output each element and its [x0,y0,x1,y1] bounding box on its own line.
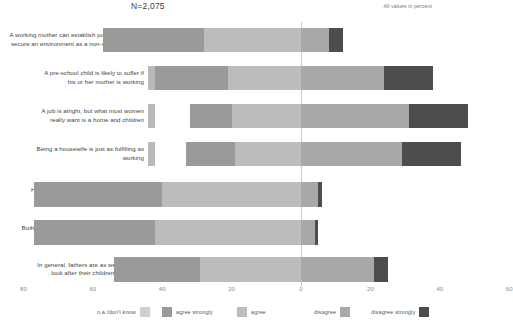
x-axis-tick: 60 [506,286,513,292]
sample-size-label: N=2,075 [131,1,165,11]
bar-segment-disagree[interactable] [301,182,318,207]
legend-swatch [237,307,247,317]
bar-segment-agree[interactable] [235,142,301,166]
legend-swatch [140,307,150,317]
legend-item[interactable]: disagree strongly [371,306,429,318]
bar-segment-agree-strongly[interactable] [103,28,204,52]
legend-label: disagree [314,309,336,315]
bar-segment-disagree[interactable] [301,220,315,245]
chart-row: A working mother can establish just as w… [0,28,435,52]
chart-row: Having a job is the best way for a woman… [0,182,435,207]
bar-segment-disagree-strongly[interactable] [374,257,388,282]
x-axis-tick: 40 [159,286,166,292]
bar-segment-agree-strongly[interactable] [155,66,228,90]
legend-label: disagree strongly [371,309,415,315]
x-axis-tick: 80 [20,286,27,292]
x-axis-tick: 40 [436,286,443,292]
bar-segment-disagree-strongly[interactable] [315,220,318,245]
chart-row: In general, fathers are as well suited t… [0,257,435,282]
bar-segment-disagree[interactable] [301,28,329,52]
chart-row: Both the husband and wife should contrib… [0,220,435,245]
legend-swatch [340,307,350,317]
stacked-bar[interactable] [186,142,460,166]
bar-segment-disagree[interactable] [301,257,374,282]
bar-segment-agree-strongly[interactable] [34,220,155,245]
bar-segment-disagree-strongly[interactable] [409,104,468,128]
bar-segment-agree[interactable] [232,104,301,128]
x-axis: 806040200204060 [0,286,435,298]
x-axis-tick: 20 [228,286,235,292]
stacked-bar[interactable] [114,257,388,282]
legend-item[interactable]: disagree [314,306,350,318]
row-label: A pre-school child is likely to suffer i… [0,69,144,86]
row-label: A job is alright, but what most womenrea… [0,107,144,124]
plot-area: A working mother can establish just as w… [0,22,435,284]
stacked-bar[interactable] [103,28,342,52]
bar-segment-disagree-strongly[interactable] [384,66,433,90]
chart-legend: n.a./don't knowagree stronglyagreedisagr… [0,306,435,320]
bar-segment-agree[interactable] [204,28,301,52]
row-label: Being a housewife is just as fulfilling … [0,145,144,162]
bar-segment-agree[interactable] [228,66,301,90]
bar-segment-agree[interactable] [162,182,301,207]
stacked-bar[interactable] [34,182,322,207]
bar-segment-disagree-strongly[interactable] [329,28,343,52]
legend-label: agree [251,309,266,315]
bar-segment-agree[interactable] [200,257,301,282]
bar-segment-agree-strongly[interactable] [34,182,162,207]
legend-item[interactable]: agree [237,306,266,318]
legend-label: n.a./don't know [97,309,136,315]
bar-segment-disagree[interactable] [301,104,409,128]
legend-item[interactable]: agree strongly [162,306,213,318]
bar-segment-disagree[interactable] [301,142,402,166]
chart-row: A job is alright, but what most womenrea… [0,104,435,128]
x-axis-tick: 20 [367,286,374,292]
row-marker-swatch [148,66,155,90]
legend-swatch [162,307,172,317]
x-axis-tick: 0 [299,286,302,292]
bar-segment-agree-strongly[interactable] [190,104,232,128]
stacked-bar[interactable] [155,66,433,90]
chart-row: A pre-school child is likely to suffer i… [0,66,435,90]
legend-swatch [419,307,429,317]
chart-row: Being a housewife is just as fulfilling … [0,142,435,166]
bar-segment-disagree-strongly[interactable] [402,142,461,166]
bar-segment-agree[interactable] [155,220,301,245]
stacked-bar[interactable] [190,104,468,128]
bar-segment-agree-strongly[interactable] [186,142,235,166]
stacked-bar[interactable] [34,220,319,245]
x-axis-tick: 60 [89,286,96,292]
row-marker-swatch [148,104,155,128]
zero-tick-mark [301,280,302,286]
unit-note-label: All values in percent [383,3,432,9]
bar-segment-disagree[interactable] [301,66,384,90]
legend-label: agree strongly [176,309,213,315]
legend-item[interactable]: n.a./don't know [97,306,150,318]
bar-segment-disagree-strongly[interactable] [318,182,321,207]
row-marker-swatch [148,142,155,166]
bar-segment-agree-strongly[interactable] [114,257,201,282]
